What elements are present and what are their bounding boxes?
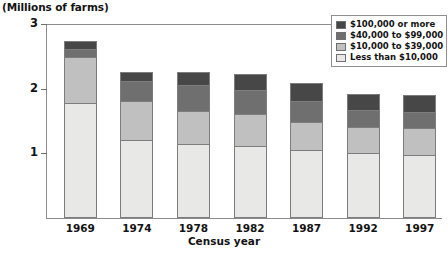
bar-segment — [235, 91, 266, 115]
bar-segment — [404, 96, 435, 114]
bar-segment — [348, 128, 379, 154]
bar-group-1978 — [177, 24, 210, 218]
bar-segment — [235, 147, 266, 217]
legend-item-label: $40,000 to $99,000 — [350, 31, 443, 40]
bar-segment — [235, 75, 266, 91]
bar-group-1982 — [234, 24, 267, 218]
legend-item: $10,000 to $39,000 — [336, 41, 442, 52]
bar-segment — [65, 50, 96, 58]
x-axis-title: Census year — [0, 235, 448, 247]
legend-item-label: Less than $10,000 — [350, 53, 438, 62]
bar-segment — [121, 82, 152, 101]
bar-segment — [404, 156, 435, 217]
legend-swatch-icon — [336, 43, 346, 51]
x-tick-label-1992: 1992 — [339, 222, 388, 234]
bar-segment — [178, 112, 209, 145]
bar-segment — [291, 84, 322, 102]
bar-group-1987 — [290, 24, 323, 218]
bar-group-1969 — [64, 24, 97, 218]
y-tick-label-1: 1 — [16, 147, 38, 159]
bar-segment — [178, 86, 209, 112]
bar-stack-1992 — [347, 94, 380, 218]
bar-segment — [348, 154, 379, 217]
bar-segment — [65, 42, 96, 50]
chart-legend: $100,000 or more$40,000 to $99,000$10,00… — [331, 15, 447, 67]
bar-stack-1969 — [64, 41, 97, 218]
bar-segment — [178, 73, 209, 86]
y-axis-unit-caption: (Millions of farms) — [2, 1, 109, 13]
bar-stack-1978 — [177, 72, 210, 218]
bar-stack-1982 — [234, 74, 267, 218]
bar-stack-1987 — [290, 83, 323, 218]
bar-segment — [178, 145, 209, 217]
bar-stack-1997 — [403, 95, 436, 219]
bar-segment — [65, 58, 96, 103]
bar-segment — [121, 73, 152, 83]
bar-segment — [235, 115, 266, 147]
bar-group-1974 — [120, 24, 153, 218]
legend-item: $40,000 to $99,000 — [336, 30, 442, 41]
bar-segment — [291, 151, 322, 217]
x-tick-label-1987: 1987 — [282, 222, 331, 234]
bar-stack-1974 — [120, 72, 153, 218]
x-tick-label-1978: 1978 — [169, 222, 218, 234]
x-tick-label-1982: 1982 — [226, 222, 275, 234]
bar-segment — [291, 123, 322, 152]
y-tick-label-2: 2 — [16, 83, 38, 95]
bar-segment — [65, 104, 96, 217]
bar-segment — [404, 113, 435, 128]
legend-item-label: $100,000 or more — [350, 20, 435, 29]
legend-swatch-icon — [336, 21, 346, 29]
farms-by-sales-stacked-bar-chart: (Millions of farms) 123 1969197419781982… — [0, 0, 448, 259]
bar-segment — [121, 102, 152, 142]
legend-swatch-icon — [336, 54, 346, 62]
x-axis-line — [46, 218, 442, 219]
bar-segment — [348, 111, 379, 128]
bar-segment — [121, 141, 152, 217]
x-tick-label-1997: 1997 — [395, 222, 444, 234]
bar-segment — [404, 129, 435, 156]
legend-item: $100,000 or more — [336, 19, 442, 30]
legend-item: Less than $10,000 — [336, 52, 442, 63]
bar-segment — [348, 95, 379, 112]
x-tick-label-1969: 1969 — [56, 222, 105, 234]
x-tick-label-1974: 1974 — [112, 222, 161, 234]
y-tick-label-3: 3 — [16, 18, 38, 30]
legend-item-label: $10,000 to $39,000 — [350, 42, 443, 51]
legend-swatch-icon — [336, 32, 346, 40]
bar-segment — [291, 102, 322, 123]
footnote-text — [3, 251, 443, 259]
